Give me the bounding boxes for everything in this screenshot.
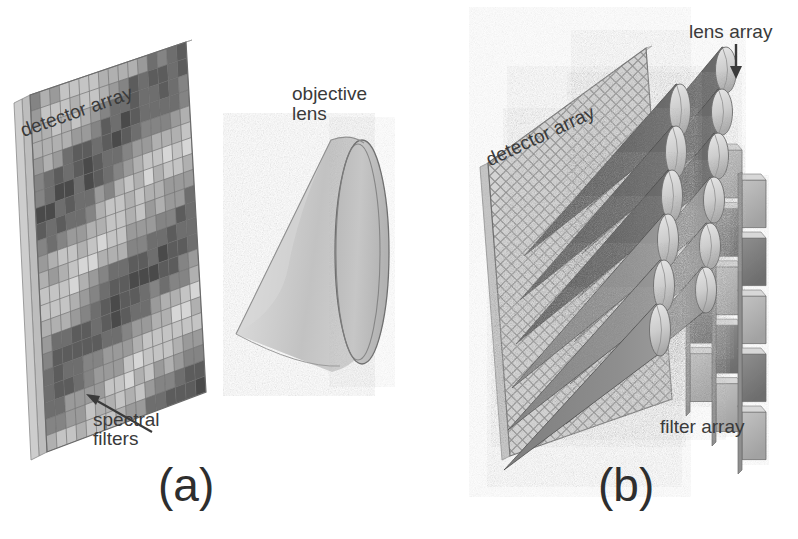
filter-tile xyxy=(742,180,766,228)
figure-illustration xyxy=(0,0,798,539)
lens-cap xyxy=(696,267,717,313)
lens-cap xyxy=(704,177,725,223)
label-objective-lens-line2: lens xyxy=(292,104,327,124)
lens-cap xyxy=(658,214,679,266)
objective-lens xyxy=(236,137,389,372)
filter-tile xyxy=(742,296,766,344)
filter-tile xyxy=(742,412,766,460)
caption-panel-a: (a) xyxy=(158,462,214,508)
caption-panel-b: (b) xyxy=(598,462,654,508)
label-spectral-filters-line1: spectral xyxy=(93,410,160,430)
lens-cap xyxy=(708,133,729,179)
label-spectral-filters-line2: filters xyxy=(93,429,138,449)
lens-cap xyxy=(700,223,721,269)
figure-root: detector array objective lens spectral f… xyxy=(0,0,798,539)
lens-cap xyxy=(712,89,733,135)
label-lens-array: lens array xyxy=(689,22,772,42)
label-objective-lens-line1: objective xyxy=(292,84,367,104)
filter-tile xyxy=(742,238,766,286)
lens-cap xyxy=(650,304,671,356)
label-filter-array: filter array xyxy=(660,417,744,437)
filter-tile xyxy=(742,354,766,402)
panel-b-illustration xyxy=(480,44,766,474)
